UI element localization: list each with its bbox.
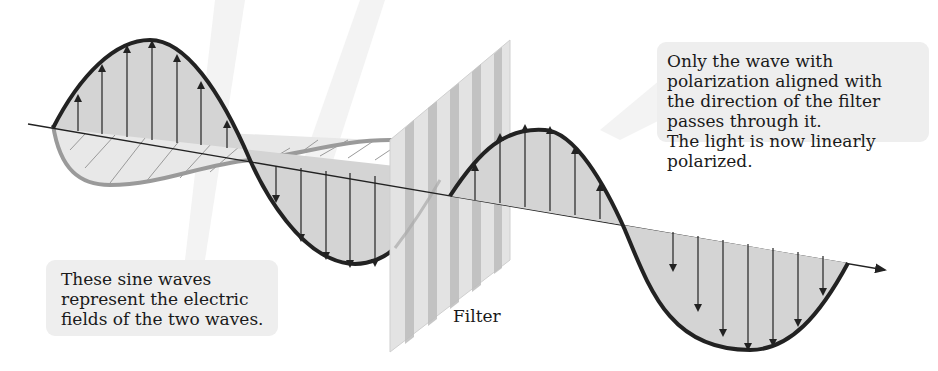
callout-right-line: polarization aligned with [667, 71, 917, 91]
transmitted-wave-callout: Only the wave with polarization aligned … [657, 42, 929, 142]
callout-right-line: passes through it. [667, 111, 917, 131]
callout-left-line: fields of the two waves. [61, 309, 268, 329]
callout-left-line: represent the electric [61, 289, 268, 309]
polarization-diagram: Only the wave with polarization aligned … [0, 0, 938, 371]
callout-right-line: The light is now linearly [667, 131, 917, 151]
callout-right-line: the direction of the filter [667, 91, 917, 111]
callout-left-line: These sine waves [61, 269, 268, 289]
callout-right-line: polarized. [667, 151, 917, 171]
sine-waves-callout: These sine waves represent the electric … [46, 260, 278, 336]
callout-right-line: Only the wave with [667, 51, 917, 71]
filter-label: Filter [453, 306, 501, 326]
